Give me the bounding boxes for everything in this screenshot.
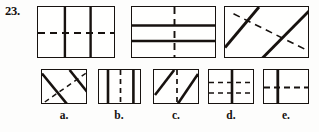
- option-d-lines: [209, 70, 254, 104]
- option-e-lines: [264, 70, 309, 104]
- prompt-figure-2: [131, 6, 216, 58]
- prompt-figure-3-lines: [225, 7, 309, 58]
- option-e-label: e.: [273, 109, 299, 121]
- option-b-lines: [99, 70, 141, 104]
- question-figure-panel: 23.: [0, 0, 319, 132]
- option-e-figure[interactable]: [263, 69, 309, 104]
- option-b-label: b.: [106, 109, 132, 121]
- prompt-figure-3: [224, 6, 309, 58]
- option-b-figure[interactable]: [98, 69, 141, 104]
- option-c-label: c.: [163, 109, 189, 121]
- prompt-figure-1-lines: [38, 7, 115, 58]
- option-c-lines: [154, 70, 199, 104]
- prompt-figure-2-lines: [132, 7, 216, 58]
- option-c-figure[interactable]: [153, 69, 199, 104]
- question-number: 23.: [5, 4, 20, 19]
- option-a-figure[interactable]: [41, 69, 87, 104]
- prompt-figure-1: [37, 6, 115, 58]
- option-a-label: a.: [51, 109, 77, 121]
- option-a-lines: [42, 70, 87, 104]
- option-d-figure[interactable]: [208, 69, 254, 104]
- option-d-label: d.: [218, 109, 244, 121]
